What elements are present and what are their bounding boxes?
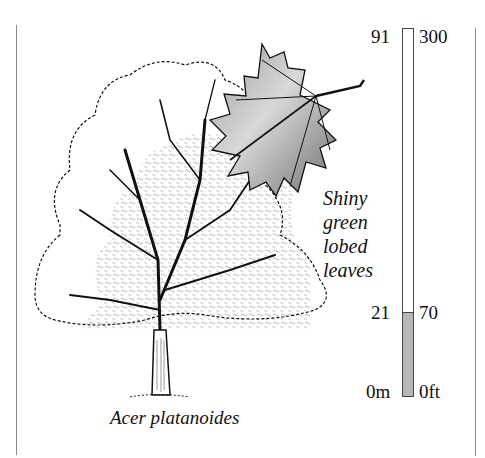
- leaf-note-line-4: leaves: [323, 258, 373, 282]
- leaf-note-line-2: green: [323, 210, 373, 234]
- scale-top-feet: 300: [419, 27, 448, 46]
- tree-trunk: [130, 330, 190, 397]
- leaf-note-line-1: Shiny: [323, 186, 373, 210]
- leaf-note-line-3: lobed: [323, 234, 373, 258]
- scale-bottom-feet: 0ft: [419, 382, 440, 401]
- tree-height-fill: [403, 312, 413, 396]
- leaf-description: Shiny green lobed leaves: [323, 186, 373, 282]
- species-caption: Acer platanoides: [110, 408, 239, 427]
- scale-mark-feet: 70: [419, 303, 438, 322]
- scale-mark-metres: 21: [371, 303, 390, 322]
- scale-bottom-metres: 0m: [366, 382, 390, 401]
- height-scale-bar: [402, 28, 414, 397]
- scale-top-metres: 91: [371, 27, 390, 46]
- maple-leaf: [210, 44, 364, 196]
